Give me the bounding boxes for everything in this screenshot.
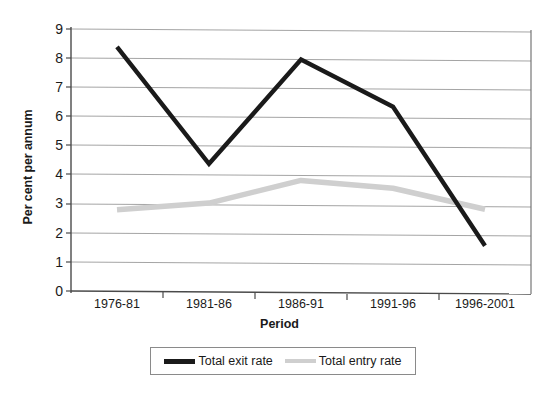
gridline-1 xyxy=(71,262,531,265)
legend-swatch-entry-icon xyxy=(285,359,316,363)
x-tick-label-1996-2001: 1996-2001 xyxy=(430,297,540,311)
gridline-7 xyxy=(71,87,531,90)
chart-figure: Per cent per annum 9 8 7 6 5 4 3 2 1 0 xyxy=(0,0,559,397)
chart-legend: Total exit rate Total entry rate xyxy=(150,347,416,375)
legend-item-total-exit-rate: Total exit rate xyxy=(158,355,278,368)
plot-area xyxy=(0,0,559,397)
x-axis-title: Period xyxy=(0,317,559,331)
legend-item-total-entry-rate: Total entry rate xyxy=(279,355,408,368)
y-tick-marks xyxy=(66,29,71,291)
x-axis-line xyxy=(71,291,531,294)
gridline-6 xyxy=(71,116,531,119)
legend-label-total-entry-rate: Total entry rate xyxy=(319,355,402,368)
legend-swatch-exit-icon xyxy=(164,359,195,364)
gridline-4 xyxy=(71,174,531,177)
gridline-2 xyxy=(71,233,531,236)
gridline-5 xyxy=(71,145,531,148)
gridline-9 xyxy=(71,29,531,32)
legend-label-total-exit-rate: Total exit rate xyxy=(198,355,272,368)
gridlines xyxy=(71,29,531,265)
